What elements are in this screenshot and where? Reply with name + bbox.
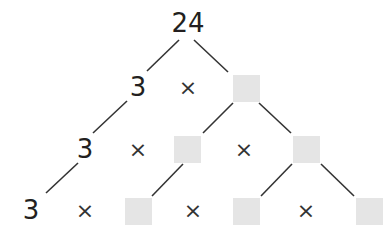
blank-answer-box[interactable]	[174, 136, 201, 163]
factor-tree-diagram: 24 3 × 3 × × 3 × × ×	[0, 0, 389, 239]
blank-answer-box[interactable]	[356, 198, 383, 225]
branch-line	[321, 164, 354, 196]
factor-number: 3	[118, 74, 158, 100]
times-symbol: ×	[183, 200, 203, 222]
times-symbol: ×	[128, 139, 148, 161]
blank-answer-box[interactable]	[233, 75, 260, 102]
times-symbol: ×	[178, 77, 198, 99]
branch-line	[147, 40, 179, 71]
branch-line	[194, 40, 228, 72]
blank-answer-box[interactable]	[125, 198, 152, 225]
branch-line	[152, 164, 183, 196]
branch-line	[203, 103, 233, 133]
branch-line	[261, 164, 292, 196]
factor-number: 3	[11, 197, 51, 223]
factor-number: 3	[65, 136, 105, 162]
blank-answer-box[interactable]	[293, 136, 320, 163]
branch-line	[46, 163, 78, 193]
times-symbol: ×	[75, 200, 95, 222]
branch-line	[93, 101, 127, 133]
times-symbol: ×	[296, 200, 316, 222]
root-number: 24	[168, 10, 208, 36]
times-symbol: ×	[234, 139, 254, 161]
branch-line	[259, 103, 291, 133]
blank-answer-box[interactable]	[233, 198, 260, 225]
